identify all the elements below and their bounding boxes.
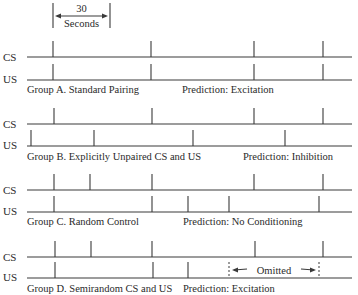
group-title: Group A. Standard Pairing: [27, 84, 140, 95]
interval-unit: Seconds: [64, 18, 99, 29]
group-title: Group C. Random Control: [27, 216, 139, 227]
group-prediction: Prediction: Excitation: [182, 84, 275, 95]
group-prediction: Prediction: Excitation: [183, 283, 276, 294]
arrow-left-icon: [55, 14, 61, 19]
us-label: US: [3, 73, 17, 85]
cs-label: CS: [3, 184, 16, 196]
omitted-annotation: Omitted: [229, 262, 319, 278]
conditioning-timeline-diagram: 30 Seconds CSUSGroup A. Standard Pairing…: [0, 0, 358, 295]
group-d: CSUSOmittedGroup D. Semirandom CS and US…: [3, 241, 352, 294]
omitted-label: Omitted: [257, 265, 292, 276]
cs-label: CS: [3, 251, 16, 263]
group-title: Group B. Explicitly Unpaired CS and US: [27, 151, 201, 162]
group-b: CSUSGroup B. Explicitly Unpaired CS and …: [3, 108, 352, 162]
arrow-right-icon: [310, 268, 316, 273]
arrow-right-icon: [102, 14, 108, 19]
us-label: US: [3, 205, 17, 217]
interval-value: 30: [76, 3, 87, 14]
group-title: Group D. Semirandom CS and US: [27, 283, 172, 294]
cs-label: CS: [3, 51, 16, 63]
group-a: CSUSGroup A. Standard PairingPrediction:…: [3, 41, 352, 95]
us-label: US: [3, 139, 17, 151]
cs-label: CS: [3, 118, 16, 130]
us-label: US: [3, 271, 17, 283]
arrow-left-icon: [232, 268, 238, 273]
time-scale-bracket: 30 Seconds: [53, 3, 110, 29]
group-prediction: Prediction: Inhibition: [243, 151, 334, 162]
group-c: CSUSGroup C. Random ControlPrediction: N…: [3, 174, 352, 227]
group-prediction: Prediction: No Conditioning: [183, 216, 303, 227]
